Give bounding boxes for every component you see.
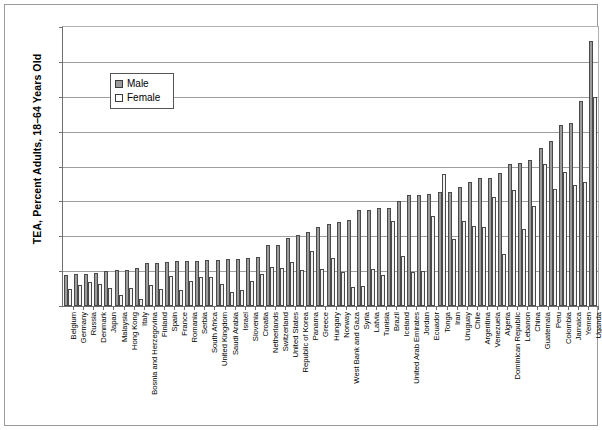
- bar-female: [290, 262, 294, 306]
- bar-group: [245, 27, 255, 306]
- bar-female: [543, 164, 547, 306]
- x-axis-label: Malaysia: [121, 312, 129, 342]
- bar-group: [336, 27, 346, 306]
- x-axis-label: Brazil: [393, 312, 401, 331]
- bar-group: [184, 27, 194, 306]
- bar-female: [331, 258, 335, 306]
- x-axis-label: Croatia: [262, 312, 270, 336]
- bar-group: [396, 27, 406, 306]
- bar-female: [502, 254, 506, 306]
- bar-group: [568, 27, 578, 306]
- x-axis-label: Peru: [555, 312, 563, 328]
- x-axis-label: West Bank and Gaza: [353, 312, 361, 384]
- bar-female: [199, 277, 203, 306]
- bar-female: [351, 287, 355, 306]
- bar-group: [204, 27, 214, 306]
- bar-female: [220, 284, 224, 306]
- bar-female: [139, 299, 143, 306]
- bar-female: [391, 221, 395, 306]
- x-tick-mark: [598, 306, 599, 310]
- bar-female: [431, 216, 435, 306]
- bar-female: [532, 206, 536, 306]
- x-axis-label: Argentina: [484, 312, 492, 345]
- y-tick-mark: [59, 306, 63, 307]
- x-axis-label: Japan: [110, 312, 118, 333]
- x-axis-label: South Africa: [211, 312, 219, 353]
- x-axis-label: Israel: [242, 312, 250, 331]
- x-axis-labels: BelgiumGermanyRussiaDenmarkJapanMalaysia…: [62, 308, 597, 428]
- bar-female: [361, 286, 365, 306]
- x-axis-label: Romania: [191, 312, 199, 342]
- bar-group: [113, 27, 123, 306]
- x-axis-label: Lebanon: [524, 312, 532, 342]
- x-axis-label: Netherlands: [272, 312, 280, 353]
- plot-area: 0%5%10%15%20%25%30%35%40%: [62, 26, 599, 307]
- bar-female: [240, 290, 244, 306]
- bar-female: [320, 269, 324, 306]
- bar-group: [73, 27, 83, 306]
- bar-group: [285, 27, 295, 306]
- bar-female: [209, 277, 213, 306]
- bar-group: [517, 27, 527, 306]
- bar-female: [78, 285, 82, 306]
- figure-frame: TEA, Percent Adults, 18–64 Years Old 0%5…: [4, 4, 598, 426]
- bar-female: [189, 281, 193, 306]
- bar-female: [462, 221, 466, 306]
- x-axis-label: Latvia: [373, 312, 381, 332]
- bar-female: [411, 272, 415, 306]
- bar-group: [588, 27, 598, 306]
- bar-group: [457, 27, 467, 306]
- bar-group: [467, 27, 477, 306]
- bar-female: [371, 269, 375, 306]
- x-axis-label: Norway: [343, 312, 351, 338]
- x-axis-label: Slovenia: [252, 312, 260, 341]
- bar-female: [98, 284, 102, 306]
- bar-group: [487, 27, 497, 306]
- legend-label-female: Female: [127, 93, 160, 103]
- bar-group: [315, 27, 325, 306]
- bar-female: [310, 251, 314, 306]
- x-axis-label: Colombia: [565, 312, 573, 344]
- x-axis-label: United Kingdom: [221, 312, 229, 366]
- bar-female: [563, 172, 567, 306]
- bar-group: [346, 27, 356, 306]
- bar-female: [482, 227, 486, 306]
- legend-swatch-male-icon: [115, 80, 123, 88]
- x-axis-label: Syria: [363, 312, 371, 329]
- x-axis-label: Algeria: [504, 312, 512, 336]
- bar-group: [275, 27, 285, 306]
- bar-group: [214, 27, 224, 306]
- bar-group: [376, 27, 386, 306]
- bar-female: [472, 226, 476, 306]
- bar-female: [512, 190, 516, 306]
- x-axis-label: Germany: [80, 312, 88, 343]
- x-axis-label: Italy: [141, 312, 149, 326]
- chart-container: TEA, Percent Adults, 18–64 Years Old 0%5…: [0, 0, 602, 430]
- bar-group: [477, 27, 487, 306]
- bars-layer: [63, 27, 598, 306]
- x-axis-label: Tonga: [444, 312, 452, 333]
- bar-female: [553, 189, 557, 306]
- bar-group: [194, 27, 204, 306]
- bar-group: [154, 27, 164, 306]
- x-axis-label: United Arab Emirates: [413, 312, 421, 384]
- bar-female: [270, 267, 274, 306]
- bar-group: [265, 27, 275, 306]
- bar-female: [522, 229, 526, 306]
- bar-female: [492, 197, 496, 306]
- x-axis-label: Panama: [312, 312, 320, 340]
- bar-group: [325, 27, 335, 306]
- legend-item-female: Female: [115, 91, 169, 105]
- bar-group: [63, 27, 73, 306]
- bar-female: [88, 282, 92, 306]
- x-axis-label: Finland: [161, 312, 169, 337]
- x-axis-label: Hong Kong: [131, 312, 139, 350]
- bar-group: [426, 27, 436, 306]
- bar-group: [366, 27, 376, 306]
- bar-female: [452, 239, 456, 306]
- bar-female: [421, 271, 425, 306]
- bar-female: [119, 295, 123, 306]
- bar-group: [295, 27, 305, 306]
- bar-female: [341, 272, 345, 306]
- bar-group: [174, 27, 184, 306]
